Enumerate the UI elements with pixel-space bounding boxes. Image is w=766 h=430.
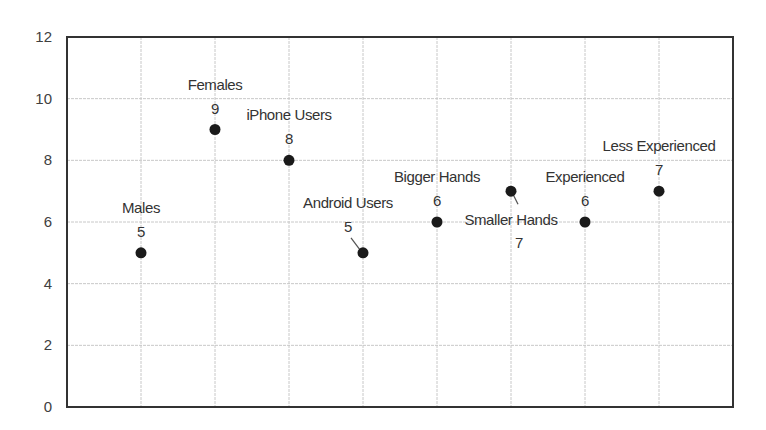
- point-name-label: Less Experienced: [603, 137, 716, 154]
- point-marker: [654, 186, 665, 197]
- point-value-label: 6: [433, 192, 441, 209]
- y-tick-label: 8: [44, 151, 52, 168]
- data-point-group: Android Users5: [303, 194, 393, 258]
- point-value-label: 9: [211, 100, 219, 117]
- point-marker: [358, 247, 369, 258]
- point-marker: [136, 247, 147, 258]
- point-marker: [284, 155, 295, 166]
- point-name-label: Bigger Hands: [394, 168, 480, 185]
- point-marker: [580, 217, 591, 228]
- point-value-label: 5: [344, 218, 352, 235]
- data-point-group: Less Experienced7: [603, 137, 716, 197]
- point-name-label: iPhone Users: [246, 106, 331, 123]
- point-marker: [210, 124, 221, 135]
- point-name-label: Smaller Hands: [464, 211, 557, 228]
- data-point-group: Females9: [188, 76, 243, 136]
- y-tick-label: 0: [44, 398, 52, 415]
- point-name-label: Android Users: [303, 194, 393, 211]
- y-tick-label: 12: [35, 28, 52, 45]
- scatter-chart: 024681012 Males5Females9iPhone Users8And…: [0, 0, 766, 430]
- y-axis-ticks: 024681012: [35, 28, 52, 415]
- point-name-label: Experienced: [546, 168, 625, 185]
- point-value-label: 7: [515, 234, 523, 251]
- point-value-label: 8: [285, 130, 293, 147]
- data-point-group: Males5: [122, 199, 160, 258]
- point-marker: [432, 217, 443, 228]
- point-name-label: Females: [188, 76, 243, 93]
- point-marker: [506, 186, 517, 197]
- y-tick-label: 6: [44, 213, 52, 230]
- gridlines: [67, 37, 733, 407]
- point-value-label: 5: [137, 223, 145, 240]
- point-name-label: Males: [122, 199, 160, 216]
- data-points: Males5Females9iPhone Users8Android Users…: [122, 76, 715, 259]
- data-point-group: iPhone Users8: [246, 106, 331, 165]
- y-tick-label: 10: [35, 90, 52, 107]
- y-tick-label: 4: [44, 275, 52, 292]
- y-tick-label: 2: [44, 336, 52, 353]
- leader-line: [351, 238, 360, 250]
- chart-canvas: 024681012 Males5Females9iPhone Users8And…: [0, 0, 766, 430]
- point-value-label: 7: [655, 161, 663, 178]
- point-value-label: 6: [581, 192, 589, 209]
